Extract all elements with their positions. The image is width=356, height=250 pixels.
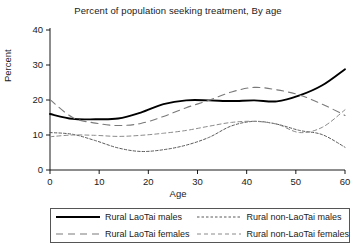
legend-swatch-long-dash [55, 229, 101, 239]
svg-text:20: 20 [143, 176, 154, 187]
svg-text:10: 10 [32, 129, 43, 140]
series-line-2 [50, 121, 345, 151]
legend-label: Rural non-LaoTai males [246, 212, 341, 222]
svg-text:30: 30 [32, 59, 43, 70]
legend-item-rural-laotai-males: Rural LaoTai males [51, 212, 194, 222]
svg-text:60: 60 [340, 176, 351, 187]
legend-item-rural-non-laotai-females: Rural non-LaoTai females [194, 229, 349, 239]
legend-item-rural-laotai-females: Rural LaoTai females [51, 229, 194, 239]
svg-text:50: 50 [291, 176, 302, 187]
legend-item-rural-non-laotai-males: Rural non-LaoTai males [194, 212, 349, 222]
svg-text:0: 0 [47, 176, 52, 187]
data-series-group [50, 69, 345, 151]
svg-text:30: 30 [192, 176, 203, 187]
legend-swatch-fine-dot [196, 212, 242, 222]
chart-figure: Percent of population seeking treatment,… [0, 0, 356, 250]
legend-swatch-short-dash [196, 229, 242, 239]
legend-label: Rural non-LaoTai females [246, 229, 349, 239]
svg-text:40: 40 [32, 24, 43, 35]
legend-swatch-solid [55, 212, 101, 222]
svg-text:0: 0 [38, 164, 43, 175]
legend-label: Rural LaoTai females [105, 229, 190, 239]
legend: Rural LaoTai males Rural non-LaoTai male… [50, 208, 350, 243]
axes: 0102030400102030405060 [32, 24, 350, 187]
series-line-0 [50, 69, 345, 119]
svg-text:10: 10 [94, 176, 105, 187]
svg-text:40: 40 [241, 176, 252, 187]
legend-label: Rural LaoTai males [105, 212, 182, 222]
svg-text:20: 20 [32, 94, 43, 105]
